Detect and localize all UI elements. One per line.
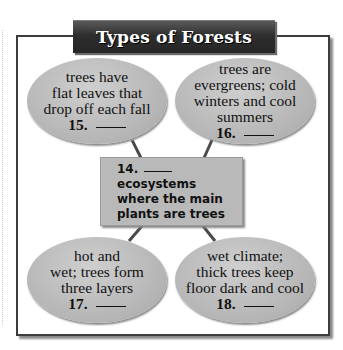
answer-blank [244,306,274,307]
central-concept-box: 14. ecosystems where the main plants are… [100,157,243,226]
answer-slot-17: 17. [68,296,125,312]
bubble-text: wet; trees form [50,264,144,280]
center-text: ecosystems [117,177,242,192]
bubble-text: floor dark and cool [186,280,304,296]
connector-17 [129,226,142,241]
bubble-text: evergreens; cold [194,77,296,93]
answer-slot-15: 15. [68,117,125,133]
connector-16 [204,140,212,158]
center-text: plants are trees [117,207,242,222]
connector-18 [203,226,215,241]
item-number: 14. [117,162,138,176]
bubble-text: trees are [219,61,271,77]
bubble-16: trees are evergreens; cold winters and c… [175,58,315,144]
item-number: 16. [216,124,235,141]
item-number: 15. [68,116,87,133]
answer-slot-18: 18. [216,296,273,312]
answer-slot-16: 16. [216,125,273,141]
title-banner: Types of Forests [73,20,275,53]
bubble-text: summers [217,109,273,125]
answer-blank [96,306,126,307]
bubble-text: trees have [66,69,128,85]
bubble-text: winters and cool [194,93,296,109]
answer-blank [96,127,126,128]
center-text: where the main [117,192,242,207]
bubble-text: hot and [74,248,120,264]
bubble-17: hot and wet; trees form three layers 17. [27,237,167,323]
answer-slot-14: 14. [117,162,242,177]
item-number: 17. [68,295,87,312]
bubble-15: trees have flat leaves that drop off eac… [27,58,167,144]
bubble-18: wet climate; thick trees keep floor dark… [175,237,315,323]
bubble-text: drop off each fall [44,101,151,117]
answer-blank [144,171,172,172]
bubble-text: wet climate; [207,248,283,264]
item-number: 18. [216,295,235,312]
bubble-text: flat leaves that [52,85,142,101]
bubble-text: thick trees keep [196,264,293,280]
connector-15 [132,140,141,158]
bubble-text: three layers [61,280,133,296]
answer-blank [244,135,274,136]
diagram-title: Types of Forests [96,27,252,47]
